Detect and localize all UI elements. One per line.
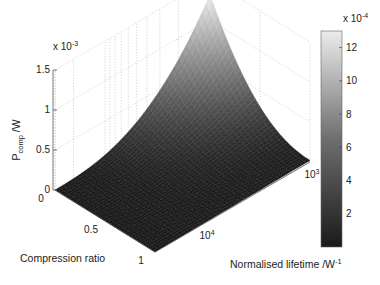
z-tick-label: 1.5	[36, 64, 50, 75]
x-tick-label: 0	[38, 193, 44, 204]
x-tick-label: 1	[138, 255, 144, 266]
surface-chart: 00.511.500.51104103 x 10-3 Pcomp /W Comp…	[0, 0, 380, 285]
colorbar-tick-label: 6	[346, 142, 352, 153]
z-tick-label: 1	[44, 104, 50, 115]
x-axis-label: Compression ratio	[20, 252, 105, 264]
z-multiplier: x 10-3	[53, 40, 78, 52]
y-tick-label: 103	[304, 168, 319, 180]
surface	[55, 0, 310, 252]
colorbar-tick-label: 12	[346, 42, 358, 53]
colorbar-tick-label: 2	[346, 208, 352, 219]
colorbar-tick-label: 10	[346, 75, 358, 86]
z-axis-label: Pcomp /W	[10, 119, 25, 160]
colorbar-multiplier: x 10-4	[343, 12, 368, 24]
colorbar	[321, 31, 342, 247]
colorbar-tick-label: 4	[346, 175, 352, 186]
x-tick-label: 0.5	[84, 224, 98, 235]
y-axis-label: Normalised lifetime /W-1	[230, 257, 342, 270]
z-tick-label: 0.5	[36, 144, 50, 155]
z-tick-label: 0	[44, 184, 50, 195]
y-tick-label: 104	[200, 229, 215, 241]
colorbar-tick-label: 8	[346, 109, 352, 120]
